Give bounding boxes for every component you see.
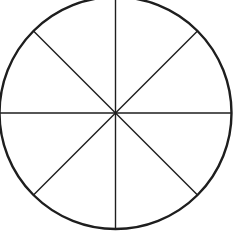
divided-circle-diagram bbox=[0, 0, 240, 250]
